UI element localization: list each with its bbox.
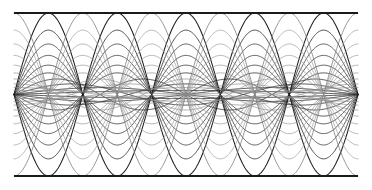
wave-curve-layer (14, 13, 358, 176)
wave-plot-canvas (0, 0, 372, 190)
figure-root (0, 0, 372, 190)
